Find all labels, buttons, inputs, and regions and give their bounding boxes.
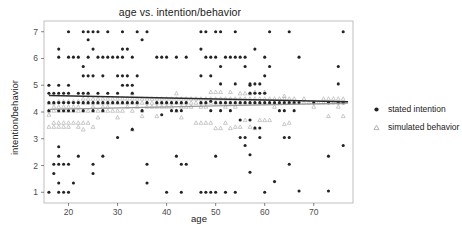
x-axis-tick-label: 40 [162,207,172,217]
data-point [234,30,237,33]
data-point [101,109,104,112]
data-point [165,191,168,194]
data-point [209,100,212,103]
data-point [121,56,124,59]
data-point [209,56,212,59]
data-point [278,109,281,112]
data-point [185,101,188,104]
data-point [131,92,134,95]
data-point [87,56,90,59]
data-point [131,128,134,131]
data-point [87,92,90,95]
y-axis-tick-label: 7 [33,27,38,37]
data-point [67,101,70,104]
data-point [180,101,183,104]
data-point [47,84,50,87]
data-point [116,101,119,104]
legend-item-simulated-behavior[interactable]: simulated behavior [368,118,462,136]
data-point [57,145,60,148]
data-point [170,109,173,112]
data-point [141,38,144,41]
data-point [219,82,222,85]
data-point [57,163,60,166]
data-point [244,136,247,139]
x-axis-tick-label: 50 [211,207,221,217]
data-point [234,101,237,104]
data-point [77,101,80,104]
data-point [248,153,251,156]
data-point [77,92,80,95]
legend-label-stated-intention: stated intention [388,104,446,114]
data-point [273,180,276,183]
data-point [288,136,291,139]
data-point [234,191,237,194]
data-point [82,109,85,112]
data-point [121,101,124,104]
data-point [67,56,70,59]
data-point [67,191,70,194]
data-point [258,92,261,95]
data-point [204,101,207,104]
data-point [199,48,202,51]
data-point [342,144,345,147]
data-point [175,56,178,59]
data-point [283,109,286,112]
data-point [62,191,65,194]
data-point [82,92,85,95]
data-point [145,181,148,184]
y-axis-tick-label: 4 [33,107,38,117]
data-point [224,101,227,104]
data-point [268,101,271,104]
data-point [248,101,251,104]
data-point [101,155,104,158]
data-point [165,56,168,59]
data-point [268,30,271,33]
data-point [239,118,242,121]
legend-item-stated-intention[interactable]: stated intention [368,100,462,118]
data-point [244,101,247,104]
data-point [67,109,70,112]
data-point [283,136,286,139]
data-point [91,101,94,104]
data-point [204,191,207,194]
data-point [209,191,212,194]
data-point [111,56,114,59]
data-point [82,101,85,104]
data-point [244,65,247,68]
data-point [258,82,261,85]
data-point [91,172,94,175]
legend-marker-circle-icon [368,106,384,113]
data-point [229,109,232,112]
chart-legend: stated intention simulated behavior [368,100,462,136]
data-point [175,109,178,112]
data-point [67,84,70,87]
data-point [214,101,217,104]
data-point [141,109,144,112]
y-axis-tick-label: 3 [33,134,38,144]
data-point [155,56,158,59]
data-point [258,101,261,104]
data-point [96,101,99,104]
data-point [67,30,70,33]
data-point [204,30,207,33]
data-point [72,56,75,59]
data-point [47,101,50,104]
data-point [131,84,134,87]
data-point [126,74,129,77]
data-point [136,30,139,33]
data-point [175,101,178,104]
data-point [165,101,168,104]
data-point [219,101,222,104]
data-point [160,101,163,104]
data-point [145,163,148,166]
data-point [224,191,227,194]
data-point [57,56,60,59]
data-point [52,101,55,104]
data-point [253,127,256,130]
data-point [234,56,237,59]
data-point [126,84,129,87]
data-point [253,92,256,95]
data-point [121,48,124,51]
data-point [248,84,251,87]
data-point [121,84,124,87]
